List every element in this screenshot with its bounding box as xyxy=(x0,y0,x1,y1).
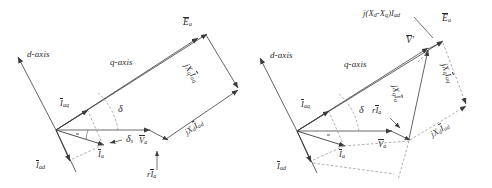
right-q-axis-label: q-axis xyxy=(344,60,367,69)
right-delta-label: δ xyxy=(359,105,364,115)
left-d-axis-line xyxy=(18,57,56,130)
right-rIa-phasor xyxy=(391,131,410,140)
right-jXd-minus-Xq-leader xyxy=(414,17,433,38)
right-Ia-label: Ia xyxy=(339,150,345,159)
left-delta-s-arc xyxy=(86,130,88,140)
right-Iad-phasor xyxy=(297,131,311,162)
left-jXdIad-phasor xyxy=(166,90,238,139)
right-Iaq-label: Iaq xyxy=(301,100,310,109)
phasor-diagram-figure: d-axis q-axis Ea jXqIaq jXdIad Iaq Iad I… xyxy=(0,0,492,188)
left-Iaq-phasor xyxy=(56,110,88,130)
right-jXd-minus-Xq-Iad-phasor xyxy=(428,42,442,49)
left-d-axis-label: d-axis xyxy=(27,50,50,59)
left-Iad-label: Iad xyxy=(36,161,45,170)
left-Iad-phasor xyxy=(56,130,70,161)
left-delta-s-leader xyxy=(110,140,122,143)
left-rIa-phasor xyxy=(149,130,168,140)
right-diagram-group xyxy=(260,17,466,180)
diagram-canvas xyxy=(0,0,492,188)
right-jXd-minus-Xq-Iad-label: j(Xd-Xq)Iad xyxy=(363,9,400,18)
right-Ia-phasor xyxy=(297,131,345,146)
right-Iaq-phasor xyxy=(297,111,329,131)
right-rIa-label: rIa xyxy=(372,106,381,115)
left-diagram-group xyxy=(18,34,238,172)
left-Ia-phasor xyxy=(56,130,104,145)
right-d-axis-line xyxy=(260,58,297,131)
left-Iaq-label: Iaq xyxy=(60,99,69,108)
left-delta-label: δ xyxy=(118,104,123,114)
left-Ea-label: Ea xyxy=(183,18,192,28)
left-q-axis-label: q-axis xyxy=(110,58,133,67)
right-Iad-label: Iad xyxy=(277,162,286,171)
right-construction-lower xyxy=(313,163,394,174)
right-construction-drop xyxy=(398,141,409,180)
left-Ia-label: Ia xyxy=(98,150,104,159)
right-jXqIa-phasor xyxy=(409,50,428,139)
right-Va-label: Va xyxy=(378,140,386,149)
right-Ea-label: Ea xyxy=(442,14,451,24)
left-delta-s-label: δs xyxy=(126,134,133,144)
right-projection-Ia-to-Iaq xyxy=(329,112,344,146)
left-rIa-label: rIa xyxy=(147,170,156,179)
right-rIa-leader xyxy=(390,118,400,128)
right-Vprime-label: V′ xyxy=(406,36,414,46)
left-jXqIaq-phasor xyxy=(206,35,238,88)
left-projection-Ia-to-Iaq xyxy=(88,111,103,145)
right-construction-Ia-to-Vavertex xyxy=(344,141,409,146)
right-d-axis-label: d-axis xyxy=(270,51,293,60)
left-Va-label: Va xyxy=(139,136,147,145)
